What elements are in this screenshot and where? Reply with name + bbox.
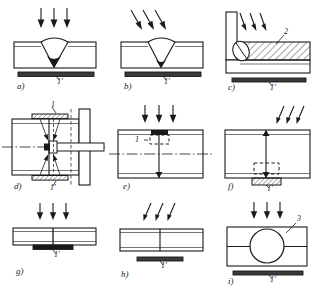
panel-letter-i: i) — [228, 276, 234, 286]
callout-b-backing: 1′ — [164, 77, 170, 86]
arrow-group-e — [142, 105, 177, 123]
hatched-block-c — [240, 42, 310, 60]
shaft-d — [44, 141, 104, 153]
callout-f-block: 1′ — [267, 184, 273, 193]
arrow-group-g — [37, 203, 69, 220]
panel-h: 1′ h) — [107, 197, 214, 292]
figure-root: 1′ a) — [0, 0, 321, 292]
panel-d: 1 1′ d) — [0, 97, 107, 197]
callout-d-lower: 1′ — [50, 183, 56, 192]
arrow-group-f — [276, 106, 304, 124]
panel-b: 1′ b) — [107, 0, 214, 97]
backing-strip-b — [125, 72, 201, 77]
panel-letter-h: h) — [121, 269, 129, 279]
callout-c-block: 2 — [284, 27, 288, 36]
panel-letter-b: b) — [124, 81, 132, 91]
callout-d-upper: 1 — [51, 100, 55, 109]
arrow-group-c — [240, 13, 267, 31]
arrow-group-i — [251, 202, 283, 219]
backing-strip-i — [233, 271, 303, 275]
plate-g — [13, 228, 96, 245]
panel-e: 1 e) — [107, 97, 214, 197]
callout-g-strip: 1′ — [54, 250, 60, 259]
backing-strip-a — [18, 72, 94, 77]
base-plate-c — [226, 60, 310, 73]
backing-strip-h — [137, 257, 183, 261]
circular-insert-i — [250, 229, 284, 263]
plate-h — [120, 229, 203, 251]
backing-strip-g — [33, 245, 73, 250]
panel-letter-f: f) — [228, 181, 234, 191]
arrow-group-b — [131, 10, 166, 30]
backing-strip-c — [232, 78, 306, 82]
panel-f: 1′ f) — [214, 97, 321, 197]
callout-e-insert: 1 — [135, 135, 139, 144]
panel-g: 1′ g) — [0, 197, 107, 292]
plate-f — [225, 130, 310, 178]
panel-letter-g: g) — [16, 266, 24, 276]
panel-letter-e: e) — [123, 181, 130, 191]
insert-block-e — [151, 130, 168, 135]
panel-letter-a: a) — [17, 81, 25, 91]
panel-g-drawing — [0, 197, 107, 292]
panel-letter-d: d) — [14, 181, 22, 191]
arrow-group-h — [143, 203, 175, 221]
panel-i: 3 1′ i) — [214, 197, 321, 292]
callout-h-strip: 1′ — [161, 261, 167, 270]
arrow-group-a — [38, 8, 71, 28]
panel-c: 2 1′ c) — [214, 0, 321, 97]
panel-a: 1′ a) — [0, 0, 107, 97]
panel-letter-c: c) — [228, 82, 235, 92]
callout-a-backing: 1′ — [57, 77, 63, 86]
callout-i-strip: 1′ — [270, 275, 276, 284]
callout-c-strip: 1′ — [270, 83, 276, 92]
callout-i-circle: 3 — [297, 214, 301, 223]
